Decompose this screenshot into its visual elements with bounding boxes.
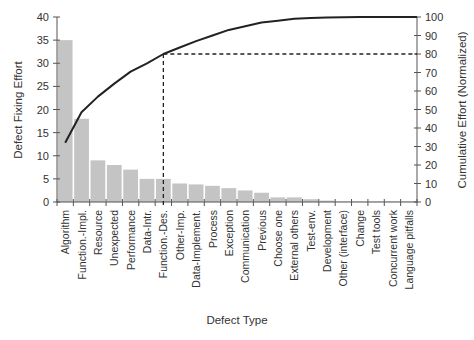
y2-tick-label: 60 bbox=[425, 85, 437, 97]
bar bbox=[287, 197, 302, 202]
x-tick-label: Test-env. bbox=[305, 210, 317, 252]
bar-series bbox=[58, 40, 416, 202]
x-tick-label: Unexpected bbox=[108, 210, 120, 266]
x-tick-label: Communication bbox=[239, 210, 251, 283]
bar bbox=[189, 184, 204, 202]
y-axis-label: Defect Fixing Effort bbox=[12, 60, 24, 158]
y-tick-label: 35 bbox=[37, 34, 49, 46]
bar bbox=[123, 170, 138, 202]
cumulative-line bbox=[65, 17, 417, 143]
x-tick-label: Algorithm bbox=[59, 210, 71, 255]
y-tick-label: 15 bbox=[37, 127, 49, 139]
bar bbox=[221, 188, 236, 202]
bar bbox=[107, 165, 122, 202]
y-tick-label: 5 bbox=[43, 173, 49, 185]
x-tick-label: Exception bbox=[223, 210, 235, 256]
y2-tick-label: 90 bbox=[425, 30, 437, 42]
x-tick-label: Other (interface) bbox=[337, 210, 349, 286]
x-tick-label: Data-Intr. bbox=[141, 210, 153, 253]
y2-tick-label: 40 bbox=[425, 122, 437, 134]
x-tick-label: Other-Imp. bbox=[174, 210, 186, 260]
x-axis-label: Defect Type bbox=[206, 314, 267, 326]
bar bbox=[74, 119, 89, 202]
x-tick-label: Process bbox=[207, 210, 219, 248]
bar bbox=[91, 160, 106, 202]
y-tick-label: 30 bbox=[37, 57, 49, 69]
bar bbox=[205, 186, 220, 202]
x-tick-label: Previous bbox=[256, 210, 268, 251]
x-tick-label: Function.-Impl. bbox=[76, 210, 88, 279]
y2-tick-label: 10 bbox=[425, 178, 437, 190]
pareto-80-reference-lines bbox=[163, 54, 417, 205]
y-tick-label: 10 bbox=[37, 150, 49, 162]
y2-tick-label: 20 bbox=[425, 159, 437, 171]
y-tick-label: 20 bbox=[37, 104, 49, 116]
x-tick-label: Function.-Des. bbox=[157, 210, 169, 278]
y2-tick-label: 50 bbox=[425, 104, 437, 116]
x-tick-label: Performance bbox=[125, 210, 137, 270]
x-tick-label: Test tools bbox=[370, 210, 382, 254]
x-tick-label: Choose one bbox=[272, 210, 284, 267]
x-tick-label: Concurrent work bbox=[387, 209, 399, 287]
x-tick-label: Resource bbox=[92, 210, 104, 255]
y-tick-label: 25 bbox=[37, 80, 49, 92]
bar bbox=[58, 40, 73, 202]
bar bbox=[238, 190, 253, 202]
y2-tick-label: 80 bbox=[425, 48, 437, 60]
bar bbox=[254, 193, 269, 202]
y2-tick-label: 30 bbox=[425, 141, 437, 153]
x-tick-label: Data-Implement. bbox=[190, 210, 202, 288]
y2-tick-label: 70 bbox=[425, 67, 437, 79]
y-tick-label: 0 bbox=[43, 196, 49, 208]
bar bbox=[172, 184, 187, 203]
y2-axis-label: Cumulative Effort (Normalized) bbox=[456, 31, 468, 188]
cumulative-polyline bbox=[65, 17, 417, 143]
x-tick-label: External others bbox=[288, 210, 300, 281]
chart-canvas: 05101520253035400102030405060708090100 A… bbox=[0, 0, 474, 340]
y2-tick-label: 100 bbox=[425, 11, 443, 23]
y-tick-label: 40 bbox=[37, 11, 49, 23]
x-tick-label: Language pitfalls bbox=[403, 210, 415, 289]
x-tick-label: Change bbox=[354, 210, 366, 247]
x-tick-labels: AlgorithmFunction.-Impl.ResourceUnexpect… bbox=[59, 209, 415, 289]
bar bbox=[271, 197, 286, 202]
x-tick-label: Development bbox=[321, 210, 333, 272]
y2-tick-label: 0 bbox=[425, 196, 431, 208]
bar bbox=[140, 179, 155, 202]
